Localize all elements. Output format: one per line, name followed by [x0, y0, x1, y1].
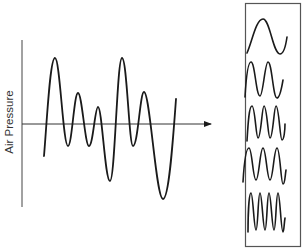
waveform-diagram: Air Pressure — [0, 0, 303, 251]
component-wave-4 — [243, 148, 286, 184]
component-wave-3 — [247, 106, 285, 141]
component-wave-1 — [247, 19, 287, 54]
composite-waveform — [44, 58, 176, 199]
component-wave-5 — [248, 193, 285, 232]
component-wave-2 — [245, 62, 283, 98]
